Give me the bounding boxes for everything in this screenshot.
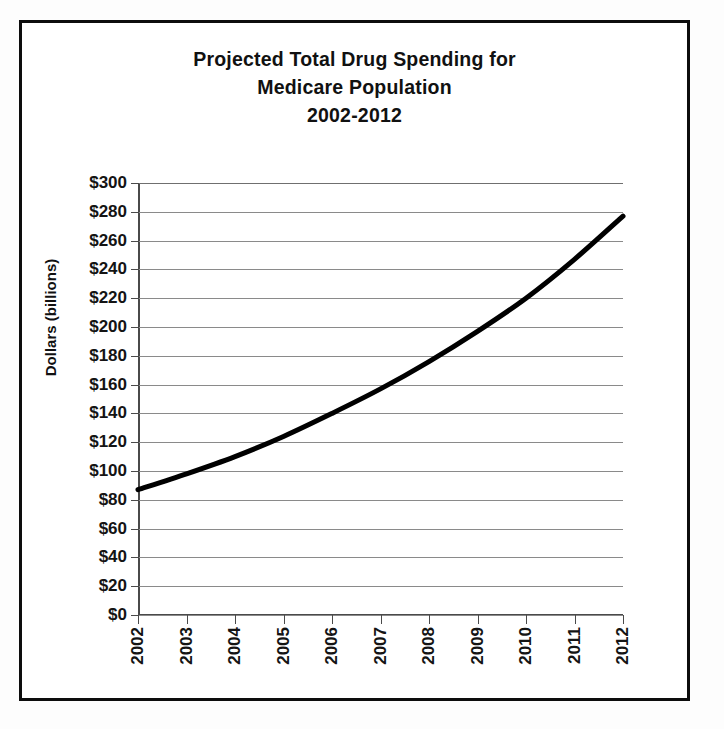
x-tick-label: 2006 xyxy=(322,627,342,665)
x-tick-label: 2011 xyxy=(565,627,585,664)
x-tick-label: 2007 xyxy=(371,627,391,665)
x-tick-mark xyxy=(381,615,382,624)
y-tick-label: $120 xyxy=(89,432,127,452)
x-tick-mark xyxy=(235,615,236,624)
y-axis-title: Dollars (billions) xyxy=(42,248,59,388)
y-tick-label: $260 xyxy=(89,231,127,251)
x-tick-label: 2009 xyxy=(468,627,488,665)
x-tick-mark xyxy=(478,615,479,624)
x-tick-label: 2004 xyxy=(225,627,245,665)
x-tick-mark xyxy=(284,615,285,624)
x-tick-label: 2010 xyxy=(516,627,536,665)
x-tick-mark xyxy=(575,615,576,624)
chart-title-line-3: 2002-2012 xyxy=(22,101,687,129)
chart-figure-frame: Projected Total Drug Spending for Medica… xyxy=(19,20,690,701)
y-tick-label: $280 xyxy=(89,202,127,222)
y-tick-label: $80 xyxy=(99,490,127,510)
x-tick-label: 2002 xyxy=(128,627,148,665)
x-tick-mark xyxy=(429,615,430,624)
y-tick-label: $140 xyxy=(89,403,127,423)
x-tick-label: 2012 xyxy=(613,627,633,665)
chart-title-line-1: Projected Total Drug Spending for xyxy=(22,45,687,73)
x-tick-mark xyxy=(138,615,139,624)
data-series-line xyxy=(138,183,623,615)
y-tick-label: $160 xyxy=(89,375,127,395)
chart-title-line-2: Medicare Population xyxy=(22,73,687,101)
x-tick-mark xyxy=(332,615,333,624)
y-tick-label: $220 xyxy=(89,288,127,308)
y-tick-label: $300 xyxy=(89,173,127,193)
page-title: Projected Total Drug Spending for Medica… xyxy=(22,45,687,129)
plot-area: $300$280$260$240$220$200$180$160$140$120… xyxy=(138,183,623,615)
x-tick-mark xyxy=(526,615,527,624)
x-tick-label: 2008 xyxy=(419,627,439,665)
y-tick-label: $180 xyxy=(89,346,127,366)
x-tick-label: 2005 xyxy=(274,627,294,665)
y-tick-label: $60 xyxy=(99,519,127,539)
y-tick-label: $0 xyxy=(108,605,127,625)
x-tick-mark xyxy=(187,615,188,624)
scanned-page: Projected Total Drug Spending for Medica… xyxy=(0,0,724,729)
spending-curve-path xyxy=(138,216,623,490)
x-tick-label: 2003 xyxy=(177,627,197,665)
y-tick-label: $100 xyxy=(89,461,127,481)
y-tick-label: $40 xyxy=(99,547,127,567)
x-tick-mark xyxy=(623,615,624,624)
y-tick-label: $240 xyxy=(89,259,127,279)
y-tick-label: $20 xyxy=(99,576,127,596)
y-tick-label: $200 xyxy=(89,317,127,337)
